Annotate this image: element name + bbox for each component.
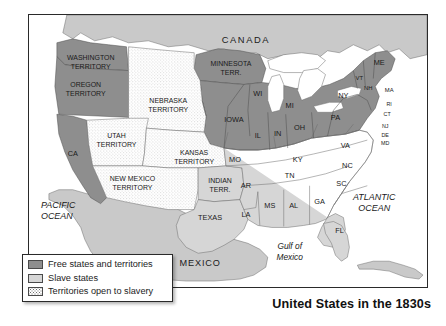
label-indian-territory-line1: INDIAN	[208, 177, 232, 184]
label-georgia: GA	[314, 197, 325, 206]
label-louisiana: LA	[241, 210, 250, 219]
label-south-carolina: SC	[336, 179, 347, 188]
label-oregon-territory-line2: TERRITORY	[66, 90, 106, 97]
label-atlantic-ocean-line2: OCEAN	[358, 203, 390, 213]
label-mexico: MEXICO	[179, 258, 220, 268]
label-pennsylvania: PA	[331, 113, 340, 122]
label-tennessee: TN	[285, 171, 295, 180]
legend-item-slave-states: Slave states	[28, 272, 168, 286]
map-frame: CANADA MEXICO PACIFIC OCEAN ATLANTIC OCE…	[28, 14, 428, 288]
label-missouri: MO	[229, 155, 241, 164]
label-kentucky: KY	[293, 155, 303, 164]
label-north-carolina: NC	[342, 161, 353, 170]
label-florida: FL	[335, 226, 344, 235]
label-nebraska-territory-line1: NEBRASKA	[149, 97, 187, 104]
label-gulf-of-mexico-line2: Mexico	[276, 252, 303, 262]
label-connecticut: CT	[384, 111, 392, 117]
label-new-york: NY	[338, 91, 348, 100]
label-gulf-of-mexico-line1: Gulf of	[277, 242, 303, 252]
label-delaware: DE	[381, 132, 389, 138]
label-illinois: IL	[255, 131, 261, 140]
map-legend: Free states and territories Slave states…	[22, 254, 173, 302]
label-massachusetts: MA	[385, 87, 394, 93]
indian-territory-shape	[198, 166, 244, 202]
label-pacific-ocean-line2: OCEAN	[41, 211, 73, 221]
figure-caption: United States in the 1830s	[272, 297, 431, 311]
label-kansas-territory-line1: KANSAS	[180, 149, 209, 156]
label-indiana: IN	[274, 129, 281, 138]
label-utah-territory-line2: TERRITORY	[97, 141, 137, 148]
label-new-jersey: NJ	[382, 123, 389, 129]
legend-label-slave-states: Slave states	[48, 274, 98, 283]
label-michigan: MI	[286, 101, 294, 110]
label-utah-territory-line1: UTAH	[107, 132, 125, 139]
label-atlantic-ocean-line1: ATLANTIC	[352, 192, 396, 202]
label-new-hampshire: NH	[364, 85, 372, 91]
label-minnesota-territory-line1: MINNESOTA	[211, 60, 252, 67]
label-kansas-territory-line2: TERRITORY	[174, 158, 214, 165]
label-minnesota-territory-line2: TERR.	[221, 69, 242, 76]
label-maine: ME	[374, 58, 385, 67]
label-oregon-territory-line1: OREGON	[70, 81, 101, 88]
label-ohio: OH	[294, 123, 305, 132]
legend-swatch-open-territories	[28, 287, 43, 296]
label-virginia: VA	[341, 141, 350, 150]
label-washington-territory-line1: WASHINGTON	[67, 55, 114, 62]
label-iowa: IOWA	[224, 115, 243, 124]
label-wisconsin: WI	[253, 89, 262, 98]
label-canada: CANADA	[222, 35, 270, 45]
legend-swatch-free-states	[28, 260, 43, 269]
label-california: CA	[68, 149, 78, 158]
label-texas: TEXAS	[198, 213, 222, 222]
legend-item-free-states: Free states and territories	[28, 258, 168, 272]
label-mississippi: MS	[264, 201, 275, 210]
legend-label-open-territories: Territories open to slavery	[48, 287, 153, 296]
label-maryland: MD	[381, 140, 389, 146]
legend-label-free-states: Free states and territories	[48, 260, 153, 269]
label-new-mexico-territory-line2: TERRITORY	[113, 184, 153, 191]
us-1830s-map-figure: CANADA MEXICO PACIFIC OCEAN ATLANTIC OCE…	[0, 0, 446, 326]
label-washington-territory-line2: TERRITORY	[71, 63, 111, 70]
label-indian-territory-line2: TERR.	[210, 186, 231, 193]
map-graphic: CANADA MEXICO PACIFIC OCEAN ATLANTIC OCE…	[29, 15, 427, 287]
legend-item-open-territories: Territories open to slavery	[28, 285, 168, 299]
label-new-mexico-territory-line1: NEW MEXICO	[110, 175, 156, 182]
label-pacific-ocean-line1: PACIFIC	[41, 200, 76, 210]
label-arkansas: AR	[241, 181, 251, 190]
legend-swatch-slave-states	[28, 274, 43, 283]
label-rhode-island: RI	[386, 101, 391, 107]
label-alabama: AL	[289, 201, 298, 210]
label-nebraska-territory-line2: TERRITORY	[148, 106, 188, 113]
label-vermont: VT	[356, 75, 364, 81]
